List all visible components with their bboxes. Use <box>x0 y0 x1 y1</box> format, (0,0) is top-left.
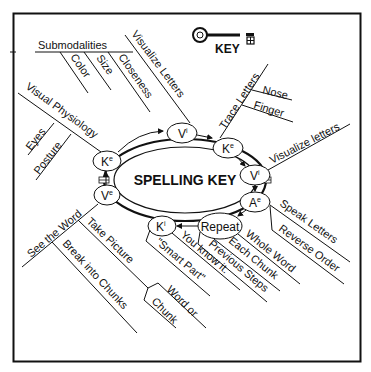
branch-finger: Finger <box>252 98 286 119</box>
branch-nose: Nose <box>262 83 290 101</box>
key-label: KEY <box>215 42 240 56</box>
branch-visualize-letters-right: Visualize letters <box>267 120 341 166</box>
node-repeat: Repeat <box>201 220 240 234</box>
branch-color: Color <box>68 51 93 80</box>
branch-eyes: Eyes <box>23 125 48 152</box>
spelling-key-diagram: KEY SPELLING KEY Vi Ke Vi Ae Repeat Ki V… <box>0 0 371 372</box>
branch-submodalities: Submodalities <box>38 39 108 51</box>
branch-take-picture: Take Picture <box>85 215 137 266</box>
branch-size: Size <box>94 52 116 76</box>
center-title: SPELLING KEY <box>134 172 237 188</box>
